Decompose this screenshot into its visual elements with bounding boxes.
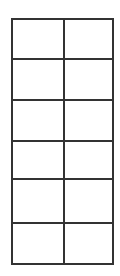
grid-cell-r4-c2 <box>65 142 112 180</box>
grid-cell-r2-c1 <box>13 60 65 101</box>
grid-cell-r5-c2 <box>65 180 112 224</box>
grid-cell-r2-c2 <box>65 60 112 101</box>
grid-cell-r1-c2 <box>65 20 112 60</box>
grid-cell-r1-c1 <box>13 20 65 60</box>
grid-cell-r3-c1 <box>13 101 65 142</box>
empty-grid-table <box>11 18 114 265</box>
grid-cell-r3-c2 <box>65 101 112 142</box>
grid-cell-r6-c2 <box>65 224 112 263</box>
grid-cell-r6-c1 <box>13 224 65 263</box>
grid-cell-r5-c1 <box>13 180 65 224</box>
grid-cell-r4-c1 <box>13 142 65 180</box>
